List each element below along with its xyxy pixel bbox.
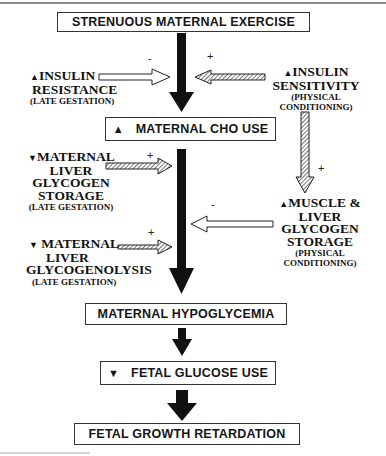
- muscle-liver-arrow: [191, 216, 273, 232]
- down-arrow-icon: ▼: [29, 240, 38, 250]
- up-arrow-icon: ▲: [30, 72, 39, 82]
- cho-use-box: ▲ MATERNAL CHO USE: [105, 117, 276, 141]
- sign-insulin-sensitivity: +: [207, 50, 213, 62]
- muscle-liver-storage-label: ▲MUSCLE & LIVER GLYCOGEN STORAGE (PHYSIC…: [272, 197, 368, 268]
- sign-sensitivity-to-storage: +: [318, 162, 324, 174]
- main-arrow-3: [172, 328, 192, 356]
- up-arrow-icon: ▲: [279, 199, 288, 209]
- hypoglycemia-box: MATERNAL HYPOGLYCEMIA: [85, 303, 287, 325]
- liver-storage-label: ▼MATERNAL LIVER GLYCOGEN STORAGE (LATE G…: [28, 151, 114, 212]
- insulin-sensitivity-arrow: [195, 70, 265, 84]
- sensitivity-to-storage-arrow: [296, 112, 314, 193]
- down-arrow-icon: ▼: [108, 367, 119, 379]
- sign-insulin-resistance: -: [148, 52, 152, 64]
- sign-glycogenolysis: +: [148, 226, 154, 238]
- up-arrow-icon: ▲: [113, 123, 124, 135]
- glycogenolysis-label: ▼ MATERNAL LIVER GLYCOGENOLYSIS (LATE GE…: [26, 238, 156, 287]
- main-arrow-4: [167, 390, 197, 421]
- fetal-growth-label: FETAL GROWTH RETARDATION: [89, 427, 286, 441]
- insulin-resistance-label: ▲INSULIN RESISTANCE (LATE GESTATION): [30, 70, 117, 106]
- insulin-sensitivity-label: ▲INSULIN SENSITIVITY (PHYSICAL CONDITION…: [266, 66, 366, 112]
- hypoglycemia-label: MATERNAL HYPOGLYCEMIA: [98, 307, 275, 321]
- fetal-growth-box: FETAL GROWTH RETARDATION: [74, 423, 300, 445]
- sign-muscle-liver: -: [211, 198, 215, 210]
- exercise-box: STRENUOUS MATERNAL EXERCISE: [57, 12, 310, 32]
- up-arrow-icon: ▲: [283, 68, 292, 78]
- main-arrow-2: [169, 149, 194, 294]
- cho-use-label: MATERNAL CHO USE: [136, 122, 269, 136]
- down-arrow-icon: ▼: [28, 153, 37, 163]
- liver-storage-arrow: [106, 158, 172, 174]
- fetal-glucose-label: FETAL GLUCOSE USE: [131, 366, 268, 380]
- exercise-box-label: STRENUOUS MATERNAL EXERCISE: [72, 15, 295, 29]
- main-arrow-1: [169, 33, 194, 112]
- sign-liver-storage: +: [147, 149, 153, 161]
- fetal-glucose-box: ▼ FETAL GLUCOSE USE: [100, 361, 276, 385]
